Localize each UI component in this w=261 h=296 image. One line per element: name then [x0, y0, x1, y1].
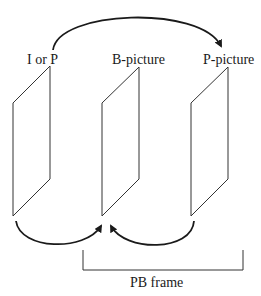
label-pb-frame: PB frame	[130, 276, 183, 290]
pb-frame-bracket	[83, 250, 243, 270]
label-p-picture: P-picture	[203, 53, 254, 67]
frame-b-picture	[102, 67, 139, 216]
label-b-picture: B-picture	[112, 53, 165, 67]
frame-p-picture	[191, 67, 228, 216]
frame-i-or-p	[13, 66, 50, 216]
label-i-or-p: I or P	[27, 53, 58, 67]
arrow-p-to-b	[111, 221, 194, 245]
arrow-ip-to-b	[16, 221, 101, 244]
arrow-ip-to-p	[53, 18, 221, 50]
diagram-canvas	[0, 0, 261, 296]
